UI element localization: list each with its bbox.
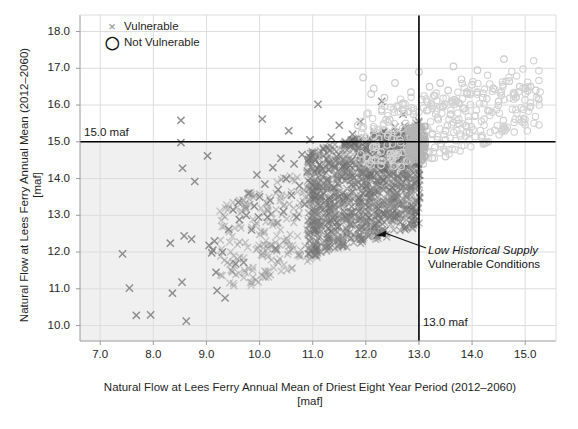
annotation-line1: Low Historical Supply [428,243,540,257]
threshold-label-13-maf: 13.0 maf [423,316,468,328]
legend-label-not-vulnerable: Not Vulnerable [124,36,200,48]
circle-marker-icon: ◯ [104,35,120,50]
x-tick-label: 15.0 [503,348,547,360]
annotation-line2: Vulnerable Conditions [428,257,540,271]
x-axis-title-line2: [maf] [60,394,560,408]
x-axis-title: Natural Flow at Lees Ferry Annual Mean o… [60,380,560,408]
x-tick-label: 10.0 [238,348,282,360]
x-marker-icon: × [104,19,120,34]
x-tick-label: 7.0 [78,348,122,360]
x-tick-label: 12.0 [344,348,388,360]
x-tick-label: 14.0 [450,348,494,360]
y-tick-label: 13.0 [36,208,70,220]
y-tick-label: 14.0 [36,172,70,184]
legend: × Vulnerable ◯ Not Vulnerable [104,18,200,50]
threshold-label-15-maf: 15.0 maf [84,126,129,138]
scatter-plot-figure: Natural Flow at Lees Ferry Annual Mean (… [0,0,578,429]
y-tick-label: 18.0 [36,25,70,37]
y-tick-label: 11.0 [36,282,70,294]
y-tick-label: 15.0 [36,135,70,147]
legend-item-not-vulnerable: ◯ Not Vulnerable [104,34,200,50]
x-tick-label: 11.0 [291,348,335,360]
y-tick-label: 10.0 [36,319,70,331]
y-tick-label: 16.0 [36,98,70,110]
x-tick-label: 8.0 [131,348,175,360]
legend-label-vulnerable: Vulnerable [124,20,179,32]
y-tick-label: 17.0 [36,61,70,73]
x-tick-label: 9.0 [184,348,228,360]
y-axis-title-line1: Natural Flow at Lees Ferry Annual Mean (… [18,48,30,322]
x-tick-label: 13.0 [397,348,441,360]
plot-canvas [0,0,578,429]
annotation-low-historical-supply: Low Historical Supply Vulnerable Conditi… [428,243,540,271]
y-tick-label: 12.0 [36,245,70,257]
x-axis-title-line1: Natural Flow at Lees Ferry Annual Mean o… [104,381,516,393]
legend-item-vulnerable: × Vulnerable [104,18,200,34]
